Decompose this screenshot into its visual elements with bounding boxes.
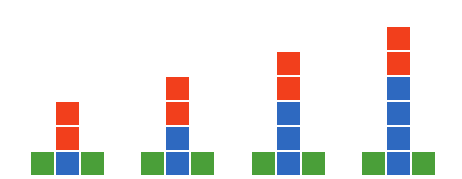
- blue-square: [387, 152, 410, 175]
- blue-square: [277, 127, 300, 150]
- red-square: [277, 52, 300, 75]
- red-square: [277, 77, 300, 100]
- red-square: [387, 52, 410, 75]
- green-square: [412, 152, 435, 175]
- blue-square: [277, 152, 300, 175]
- green-square: [362, 152, 385, 175]
- green-square: [252, 152, 275, 175]
- green-square: [31, 152, 54, 175]
- green-square: [191, 152, 214, 175]
- green-square: [81, 152, 104, 175]
- red-square: [56, 127, 79, 150]
- green-square: [141, 152, 164, 175]
- red-square: [387, 27, 410, 50]
- blue-square: [387, 77, 410, 100]
- blue-square: [387, 127, 410, 150]
- blue-square: [277, 102, 300, 125]
- blue-square: [166, 127, 189, 150]
- red-square: [56, 102, 79, 125]
- red-square: [166, 77, 189, 100]
- blue-square: [56, 152, 79, 175]
- green-square: [302, 152, 325, 175]
- red-square: [166, 102, 189, 125]
- blue-square: [166, 152, 189, 175]
- blue-square: [387, 102, 410, 125]
